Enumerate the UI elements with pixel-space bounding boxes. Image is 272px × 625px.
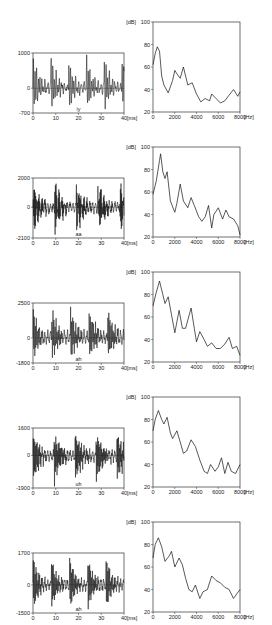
y-axis-unit: [dB]: [126, 19, 136, 25]
y-tick-label: 1000: [18, 50, 30, 56]
x-tick-label: 4000: [190, 614, 202, 620]
y-tick-label: 20: [144, 484, 150, 490]
x-tick-label: 0: [31, 365, 34, 371]
x-axis-unit: [Hz]: [244, 364, 254, 370]
x-tick-label: 4000: [190, 114, 202, 120]
figure-row-uh: 16000-1900010203040[ms]uh10080604020[dB]…: [16, 394, 254, 496]
vowel-label: iy: [77, 106, 81, 112]
spectrum-plot: 10080604020[dB]02000400060008000[Hz]: [126, 519, 254, 620]
x-tick-label: 20: [75, 365, 81, 371]
x-tick-label: 4000: [190, 239, 202, 245]
x-tick-label: 6000: [212, 114, 224, 120]
x-axis-unit: [ms]: [127, 365, 138, 371]
x-tick-label: 30: [98, 115, 104, 121]
x-tick-label: 0: [31, 490, 34, 496]
y-tick-label: 40: [144, 212, 150, 218]
spectrum-trace: [153, 47, 240, 103]
y-axis-unit: [dB]: [126, 144, 136, 150]
x-tick-label: 0: [31, 240, 34, 246]
y-tick-label: 40: [144, 87, 150, 93]
y-axis-unit: [dB]: [126, 394, 136, 400]
plot-frame: [153, 147, 240, 237]
y-tick-label: 2000: [18, 175, 30, 181]
x-tick-label: 30: [98, 490, 104, 496]
y-tick-label: 60: [144, 314, 150, 320]
y-tick-label: -1800: [16, 360, 30, 366]
vowel-label: ah: [75, 356, 81, 362]
x-tick-label: 2000: [169, 489, 181, 495]
vowel-label: ah: [75, 606, 81, 612]
waveform-plot: 20000-2100010203040[ms]aa: [16, 175, 138, 246]
vowel-label: aa: [75, 231, 82, 237]
y-tick-label: 20: [144, 609, 150, 615]
x-tick-label: 4000: [190, 489, 202, 495]
spectrum-plot: 10080604020[dB]02000400060008000[Hz]: [126, 269, 254, 370]
x-tick-label: 6000: [212, 239, 224, 245]
x-tick-label: 10: [53, 615, 59, 621]
y-tick-label: 100: [141, 519, 150, 525]
y-tick-label: -1900: [16, 485, 30, 491]
x-tick-label: 30: [98, 240, 104, 246]
y-tick-label: -700: [19, 110, 30, 116]
y-tick-label: 0: [27, 85, 30, 91]
y-tick-label: 40: [144, 587, 150, 593]
y-tick-label: 60: [144, 439, 150, 445]
y-tick-label: -2100: [16, 235, 30, 241]
y-tick-label: 40: [144, 462, 150, 468]
vowel-waveform-spectrum-figure: 10000-700010203040[ms]iy10080604020[dB]0…: [0, 0, 272, 625]
y-tick-label: 0: [27, 204, 30, 210]
y-tick-label: 60: [144, 564, 150, 570]
plot-frame: [153, 397, 240, 487]
y-tick-label: 1700: [18, 550, 30, 556]
spectrum-trace: [153, 281, 240, 355]
y-tick-label: 80: [144, 167, 150, 173]
plot-frame: [153, 522, 240, 612]
waveform-trace: [33, 184, 124, 235]
y-tick-label: 100: [141, 144, 150, 150]
x-tick-label: 20: [75, 240, 81, 246]
figure-row-ah: 25000-1800010203040[ms]ah10080604020[dB]…: [16, 269, 254, 371]
waveform-plot: 10000-700010203040[ms]iy: [18, 50, 138, 121]
waveform-plot: 16000-1900010203040[ms]uh: [16, 425, 138, 496]
x-tick-label: 0: [151, 614, 154, 620]
waveform-trace: [33, 307, 124, 358]
y-tick-label: 80: [144, 542, 150, 548]
y-tick-label: 100: [141, 269, 150, 275]
x-tick-label: 10: [53, 365, 59, 371]
y-tick-label: 80: [144, 417, 150, 423]
y-tick-label: 80: [144, 292, 150, 298]
waveform-trace: [33, 558, 124, 609]
y-tick-label: 40: [144, 337, 150, 343]
x-axis-unit: [ms]: [127, 240, 138, 246]
x-axis-unit: [ms]: [127, 615, 138, 621]
spectrum-plot: 10080604020[dB]02000400060008000[Hz]: [126, 19, 254, 120]
plot-frame: [153, 272, 240, 362]
y-tick-label: 0: [27, 335, 30, 341]
figure-row-ah: 17000-1500010203040[ms]ah10080604020[dB]…: [16, 519, 254, 621]
y-tick-label: 60: [144, 189, 150, 195]
x-tick-label: 10: [53, 240, 59, 246]
x-tick-label: 6000: [212, 364, 224, 370]
x-axis-unit: [Hz]: [244, 239, 254, 245]
x-tick-label: 2000: [169, 239, 181, 245]
x-tick-label: 6000: [212, 489, 224, 495]
spectrum-plot: 10080604020[dB]02000400060008000[Hz]: [126, 144, 254, 245]
x-tick-label: 10: [53, 115, 59, 121]
figure-row-aa: 20000-2100010203040[ms]aa10080604020[dB]…: [16, 144, 254, 246]
x-axis-unit: [ms]: [127, 115, 138, 121]
x-tick-label: 4000: [190, 364, 202, 370]
y-tick-label: 0: [27, 582, 30, 588]
y-tick-label: 80: [144, 42, 150, 48]
spectrum-trace: [153, 538, 240, 599]
x-tick-label: 0: [151, 239, 154, 245]
y-tick-label: 1600: [18, 425, 30, 431]
x-tick-label: 30: [98, 615, 104, 621]
x-tick-label: 0: [151, 114, 154, 120]
waveform-plot: 25000-1800010203040[ms]ah: [16, 300, 138, 371]
figure-row-iy: 10000-700010203040[ms]iy10080604020[dB]0…: [18, 19, 255, 121]
x-tick-label: 30: [98, 365, 104, 371]
spectrum-plot: 10080604020[dB]02000400060008000[Hz]: [126, 394, 254, 495]
x-tick-label: 10: [53, 490, 59, 496]
y-tick-label: 20: [144, 359, 150, 365]
y-tick-label: 20: [144, 234, 150, 240]
